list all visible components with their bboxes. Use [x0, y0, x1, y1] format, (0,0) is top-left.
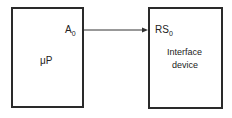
- pin-rs0-label: RS0: [155, 25, 173, 39]
- interface-device-label-line1: Interface: [167, 47, 202, 57]
- interface-device-label-line2: device: [172, 60, 198, 70]
- connection-arrow: [0, 0, 232, 118]
- microprocessor-label: μP: [40, 56, 52, 66]
- pin-a0-label: A0: [65, 25, 76, 39]
